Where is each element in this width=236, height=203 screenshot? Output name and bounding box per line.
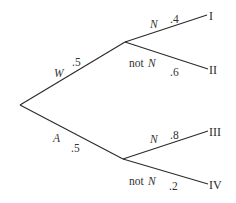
branch-label-a-not-prefix: not xyxy=(129,175,145,187)
probability-tree-diagram: W .5 A .5 N .4 not N .6 N .8 not N .2 I … xyxy=(0,0,236,203)
outcome-label-iii: III xyxy=(209,125,221,139)
branch-label-w-not-prefix: not xyxy=(129,57,145,69)
branch-prob-a-not-n: .2 xyxy=(169,180,178,192)
outcome-label-i: I xyxy=(209,9,213,23)
branch-prob-w: .5 xyxy=(72,56,81,68)
branch-label-a: A xyxy=(52,132,61,144)
branch-prob-w-not-n: .6 xyxy=(170,66,179,78)
branch-label-w-not-n: N xyxy=(147,57,157,69)
branch-prob-a: .5 xyxy=(71,142,80,154)
outcome-label-ii: II xyxy=(209,63,217,77)
branch-prob-a-n: .8 xyxy=(170,129,179,141)
edge-root-to-w xyxy=(20,42,125,105)
branch-label-a-not-n: N xyxy=(147,175,157,187)
branch-prob-w-n: .4 xyxy=(170,13,179,25)
edge-a-to-outcome-iii xyxy=(123,131,208,159)
edge-w-to-outcome-i xyxy=(125,15,207,42)
branch-label-w-n: N xyxy=(149,18,159,30)
branch-label-w: W xyxy=(54,67,65,79)
outcome-label-iv: IV xyxy=(209,178,222,192)
branch-label-a-n: N xyxy=(149,133,159,145)
